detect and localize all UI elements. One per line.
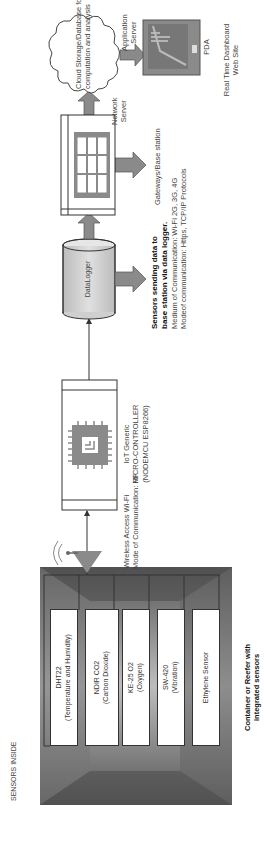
- pda-graphic: [143, 20, 200, 75]
- microcontroller-graphic: [62, 380, 117, 510]
- sensor-detail: (Oxygen): [136, 663, 145, 692]
- application-server-line2: Server: [129, 14, 138, 51]
- dashboard-caption-line1: Real Time Dashboard: [222, 15, 231, 105]
- sensor-name: DHT22: [55, 666, 64, 688]
- datalogger-caption-line4: Modeof communication: Https, TCP/IP Prot…: [179, 168, 188, 329]
- application-server-label: Application Server: [120, 14, 139, 51]
- sensor-box-ke25-o2: KE-25 O2 (Oxygen): [122, 609, 150, 746]
- container-caption-line1: Container or Reefer with: [243, 644, 252, 731]
- datalogger-caption-line3: Medium of Communication: Wi-Fi 2G, 3G, 4…: [170, 168, 179, 329]
- sensors-inside-header: SENSORS INSIDE: [10, 741, 19, 801]
- dashboard-caption-line2: Web Site: [231, 15, 240, 105]
- container-caption-line2: integrated sensors: [252, 644, 261, 731]
- sensor-box-dht22: DHT22 (Temperature and Humidity): [50, 609, 78, 746]
- sensor-box-ndir-co2: NDIR CO2 (Carbon Dioxide): [85, 609, 119, 746]
- iot-architecture-diagram: SENSORS INSIDE DHT22 (Temperature and Hu…: [0, 0, 264, 841]
- microcontroller-label: IoT Generic MICRO-CONTROLLER (NODEMCU ES…: [122, 399, 150, 489]
- datalogger-label: DataLogger: [84, 245, 93, 313]
- sensor-name: NDIR CO2: [93, 661, 102, 694]
- application-server-line1: Application: [120, 14, 129, 51]
- sensor-box-ethylene: Ethylene Sensor: [192, 609, 220, 746]
- cloud-line1: Cloud Storage/Database for: [74, 21, 83, 89]
- container-caption: Container or Reefer with integrated sens…: [243, 644, 262, 731]
- sensor-detail: (Temperature and Humidity): [64, 634, 73, 721]
- network-server-line1: Network: [110, 97, 119, 125]
- cloud-label: Cloud Storage/Database for computation a…: [74, 21, 93, 89]
- dashboard-caption: Real Time Dashboard Web Site: [222, 15, 241, 105]
- network-server-label: Network Server: [110, 97, 129, 125]
- cloud-line2: computation and analysis: [83, 21, 92, 89]
- sensor-detail: (Carbon Dioxide): [102, 651, 111, 704]
- pda-label: PDA: [202, 35, 211, 59]
- gateway-graphic: [61, 115, 115, 215]
- mcu-line2: MICRO-CONTROLLER: [131, 399, 140, 489]
- sensor-name: SW-420: [162, 665, 171, 690]
- gateway-label: Gateways/Base station: [153, 128, 162, 205]
- sensor-name: KE-25 O2: [127, 662, 136, 693]
- sensor-name: Ethylene Sensor: [202, 652, 211, 703]
- sensor-box-sw420: SW-420 (Vibration): [157, 609, 185, 746]
- network-server-line2: Server: [119, 97, 128, 125]
- mcu-line3: (NODEMCU ESP8266): [141, 399, 150, 489]
- mcu-line1: IoT Generic: [122, 399, 131, 489]
- sensor-detail: (Vibration): [171, 661, 180, 693]
